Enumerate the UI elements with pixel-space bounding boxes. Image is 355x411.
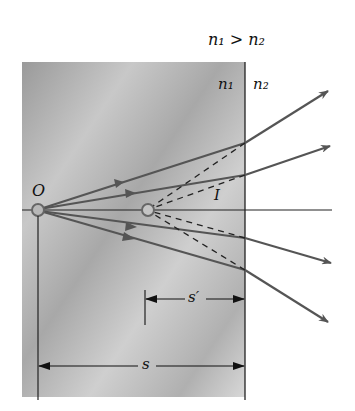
refraction-diagram — [0, 0, 355, 411]
object-point — [32, 204, 44, 216]
refracted-rays — [245, 91, 331, 322]
image-label: I — [214, 188, 220, 203]
image-distance-label: s′ — [188, 290, 199, 305]
medium2-label: n₂ — [253, 77, 269, 92]
refractive-index-condition: n₁ > n₂ — [208, 32, 265, 48]
medium1-label: n₁ — [218, 77, 234, 92]
object-label: O — [32, 183, 45, 199]
medium-n1-region — [22, 62, 245, 397]
object-distance-label: s — [142, 357, 150, 372]
image-point — [142, 204, 154, 216]
